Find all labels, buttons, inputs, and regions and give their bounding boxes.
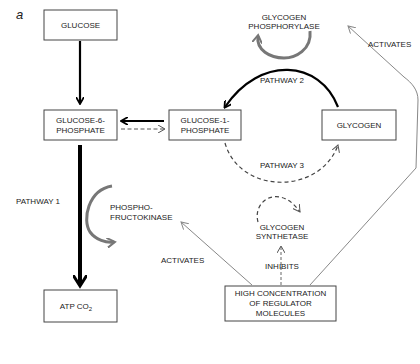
activates-pfk-label: ACTIVATES bbox=[161, 256, 204, 265]
node-glucose: GLUCOSE bbox=[44, 10, 117, 40]
enzyme-phosphofructokinase-line1: PHOSPHO- bbox=[110, 203, 153, 212]
svg-text:MOLECULES: MOLECULES bbox=[256, 309, 305, 318]
activates-phosphorylase-label: ACTIVATES bbox=[368, 40, 411, 49]
enzyme-glycogen-synthetase-line2: SYNTHETASE bbox=[256, 232, 309, 241]
svg-text:GLYCOGEN: GLYCOGEN bbox=[337, 121, 382, 130]
node-glucose-6-phosphate: GLUCOSE-6- PHOSPHATE bbox=[44, 110, 117, 140]
enzyme-glycogen-phosphorylase-line2: PHOSPHORYLASE bbox=[248, 22, 319, 31]
svg-text:HIGH CONCENTRATION: HIGH CONCENTRATION bbox=[235, 289, 327, 298]
pathway-1-label: PATHWAY 1 bbox=[16, 197, 61, 206]
phosphorylase-enzyme-arrow bbox=[258, 31, 310, 58]
svg-text:GLUCOSE: GLUCOSE bbox=[61, 21, 100, 30]
svg-text:OF REGULATOR: OF REGULATOR bbox=[249, 299, 312, 308]
glycogen-metabolism-diagram: a GLUCOSE GLUCOSE-6- PHOSPHATE GLUCOSE-1… bbox=[0, 0, 420, 364]
activates-pfk-line bbox=[181, 222, 252, 285]
svg-text:GLUCOSE-1-: GLUCOSE-1- bbox=[181, 116, 230, 125]
pathway-2-label: PATHWAY 2 bbox=[260, 76, 305, 85]
node-regulator-molecules: HIGH CONCENTRATION OF REGULATOR MOLECULE… bbox=[225, 286, 336, 321]
node-glycogen: GLYCOGEN bbox=[322, 110, 396, 140]
svg-text:GLUCOSE-6-: GLUCOSE-6- bbox=[56, 116, 105, 125]
enzyme-glycogen-phosphorylase-line1: GLYCOGEN bbox=[262, 13, 307, 22]
enzyme-glycogen-synthetase-line1: GLYCOGEN bbox=[260, 223, 305, 232]
node-atp-co2: ATP CO2 bbox=[44, 290, 117, 322]
svg-text:ATP CO2: ATP CO2 bbox=[60, 302, 93, 312]
activates-phosphorylase-line bbox=[310, 26, 418, 285]
panel-label: a bbox=[16, 7, 23, 22]
enzyme-phosphofructokinase-line2: FRUCTOKINASE bbox=[110, 213, 173, 222]
svg-text:PHOSPHATE: PHOSPHATE bbox=[181, 126, 230, 135]
svg-text:PHOSPHATE: PHOSPHATE bbox=[56, 126, 105, 135]
pathway-3-label: PATHWAY 3 bbox=[260, 161, 305, 170]
synthetase-enzyme-arrow bbox=[257, 197, 300, 222]
node-glucose-1-phosphate: GLUCOSE-1- PHOSPHATE bbox=[169, 110, 241, 140]
inhibits-label: INHIBITS bbox=[265, 262, 299, 271]
